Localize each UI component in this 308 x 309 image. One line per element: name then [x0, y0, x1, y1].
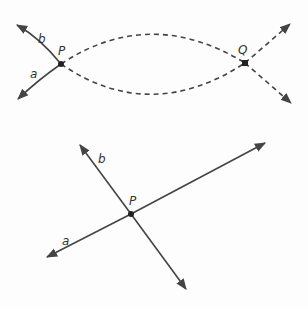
label-P-top: P [58, 44, 66, 58]
curve-b-dashed [61, 63, 245, 94]
label-Q-top: Q [238, 43, 247, 57]
point-Q-top [242, 60, 248, 66]
curve-b-dashed-end [245, 63, 291, 103]
label-b-top: b [38, 32, 46, 46]
line-a-left [47, 214, 131, 257]
label-a-top: a [30, 67, 37, 81]
point-P-bottom [128, 211, 134, 217]
label-a-bottom: a [62, 234, 69, 248]
top-figure: b a P Q [17, 24, 291, 103]
point-P-top [58, 61, 64, 67]
diagram-svg: b a P Q b a P [0, 0, 308, 309]
curve-a-dashed-end [245, 24, 290, 63]
line-b-lower [131, 214, 186, 289]
line-a-right [131, 143, 265, 214]
bottom-figure: b a P [47, 143, 265, 289]
diagram-canvas: b a P Q b a P [0, 0, 308, 309]
label-b-bottom: b [98, 152, 106, 166]
label-P-bottom: P [129, 194, 137, 208]
curve-a-solid [18, 64, 61, 99]
curve-a-dashed [61, 34, 245, 64]
